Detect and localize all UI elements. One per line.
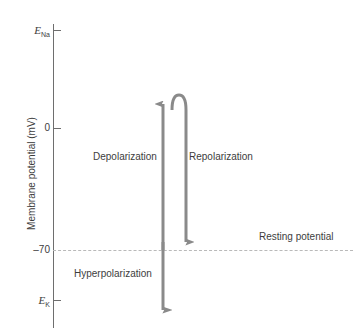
- arrow-layer: [0, 0, 353, 336]
- resting-potential-label: Resting potential: [259, 231, 334, 242]
- repolarization-arrow: [172, 95, 186, 242]
- depolarization-label: Depolarization: [93, 151, 157, 162]
- action-potential-figure: ENa 0 –70 EK Membrane potential (mV) De: [0, 0, 353, 336]
- hyperpolarization-label: Hyperpolarization: [74, 268, 152, 279]
- repolarization-label: Repolarization: [189, 151, 253, 162]
